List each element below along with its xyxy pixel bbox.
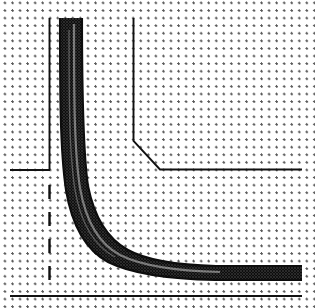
decay-curve: [0, 0, 315, 308]
chart-vector-layer: [0, 0, 315, 308]
scanned-chart-figure: [0, 0, 315, 308]
